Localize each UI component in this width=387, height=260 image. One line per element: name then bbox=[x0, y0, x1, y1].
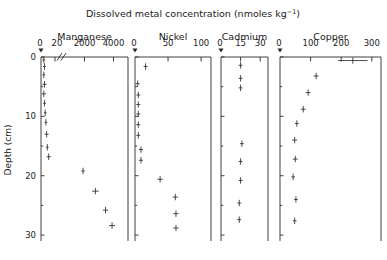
figure-title: Dissolved metal concentration (nmoles kg… bbox=[86, 8, 300, 20]
zero-marker-triangle bbox=[38, 49, 43, 53]
y-tick-label-30: 30 bbox=[25, 230, 36, 240]
x-zero-label-nickel: 0 bbox=[131, 38, 136, 48]
y-tick-label-20: 20 bbox=[25, 171, 36, 181]
x-zero-label-manganese: 0 bbox=[37, 38, 42, 48]
x-tick-label-lower-20: 20 bbox=[52, 38, 63, 48]
x-tick-label-upper-4000: 4000 bbox=[103, 38, 125, 48]
x-zero-label-cadmium: 0 bbox=[217, 38, 222, 48]
x-tick-label-100: 100 bbox=[193, 38, 209, 48]
x-tick-label-30: 30 bbox=[255, 38, 266, 48]
zero-marker-triangle bbox=[277, 49, 282, 53]
zero-marker-triangle bbox=[132, 49, 137, 53]
metal-depth-profile-figure: Dissolved metal concentration (nmoles kg… bbox=[0, 0, 387, 260]
y-tick-label-10: 10 bbox=[25, 111, 36, 121]
x-tick-label-200: 200 bbox=[333, 38, 349, 48]
x-tick-label-100: 100 bbox=[302, 38, 318, 48]
y-tick-label-0: 0 bbox=[31, 52, 36, 62]
x-tick-label-50: 50 bbox=[163, 38, 174, 48]
x-tick-label-300: 300 bbox=[364, 38, 380, 48]
zero-marker-triangle bbox=[218, 49, 223, 53]
x-tick-label-upper-2000: 2000 bbox=[74, 38, 96, 48]
x-zero-label-copper: 0 bbox=[276, 38, 281, 48]
y-axis-label: Depth (cm) bbox=[3, 124, 13, 175]
figure-canvas: Dissolved metal concentration (nmoles kg… bbox=[0, 0, 387, 260]
x-tick-label-15: 15 bbox=[235, 38, 246, 48]
